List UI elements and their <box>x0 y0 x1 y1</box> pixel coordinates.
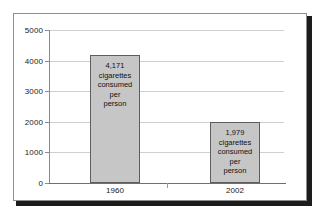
bar-2002-line5: person <box>224 166 247 176</box>
y-tick-label-5000: 5000 <box>25 26 43 35</box>
bar-1960[interactable]: 4,171 cigarettes consumed per person <box>90 55 140 183</box>
bar-1960-line4: per <box>110 90 121 100</box>
y-tick-label-4000: 4000 <box>25 56 43 65</box>
y-tick-mark-2000 <box>45 122 49 123</box>
gridline-4000 <box>49 61 284 62</box>
y-tick-mark-4000 <box>45 61 49 62</box>
y-tick-label-3000: 3000 <box>25 87 43 96</box>
y-tick-mark-1000 <box>45 152 49 153</box>
bar-2002[interactable]: 1,979 cigarettes consumed per person <box>210 122 260 183</box>
x-axis-label-2002: 2002 <box>226 186 244 195</box>
y-tick-mark-3000 <box>45 91 49 92</box>
gridline-3000 <box>49 91 284 92</box>
bar-2002-value: 1,979 <box>226 128 245 138</box>
plot-area: 5000 4000 3000 2000 1000 0 <box>49 30 284 183</box>
y-tick-label-2000: 2000 <box>25 117 43 126</box>
bar-2002-line2: cigarettes <box>219 138 252 148</box>
y-tick-mark-0 <box>45 183 49 184</box>
y-tick-label-1000: 1000 <box>25 148 43 157</box>
x-axis-label-1960: 1960 <box>106 186 124 195</box>
chart-frame: 5000 4000 3000 2000 1000 0 <box>13 13 307 201</box>
bar-1960-value: 4,171 <box>106 61 125 71</box>
bar-1960-line2: cigarettes <box>99 71 132 81</box>
x-axis-mid-tick <box>167 183 168 188</box>
bar-2002-line4: per <box>230 157 241 167</box>
y-axis-spine <box>49 30 50 183</box>
bar-2002-line3: consumed <box>218 147 253 157</box>
bar-1960-line3: consumed <box>98 80 133 90</box>
chart-figure: 5000 4000 3000 2000 1000 0 <box>0 0 325 219</box>
y-tick-mark-5000 <box>45 30 49 31</box>
y-tick-label-0: 0 <box>38 179 43 188</box>
bar-1960-line5: person <box>104 99 127 109</box>
gridline-5000 <box>49 30 284 31</box>
